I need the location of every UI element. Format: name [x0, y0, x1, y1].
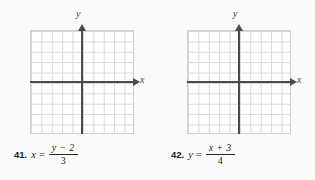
- worksheet-page: y x 41. x = y − 2 3 y x 42. y: [0, 0, 315, 180]
- problem-41: y x 41. x = y − 2 3: [0, 0, 157, 180]
- fraction-41: y − 2 3: [49, 143, 78, 166]
- problem-caption-41: 41. x = y − 2 3: [14, 143, 78, 166]
- x-axis-arrow-icon-41: [133, 78, 140, 86]
- x-axis-label-41: x: [140, 75, 144, 85]
- equals-sign-42: =: [196, 149, 202, 160]
- y-axis-arrow-icon-41: [78, 24, 86, 31]
- equals-sign-41: =: [39, 149, 45, 160]
- coordinate-plane-42: y x: [187, 30, 291, 134]
- coordinate-plane-41: y x: [30, 30, 134, 134]
- x-axis-arrow-icon-42: [290, 78, 297, 86]
- y-axis-arrow-icon-42: [235, 24, 243, 31]
- y-axis-41: [81, 30, 83, 134]
- fraction-numerator-41: y − 2: [49, 143, 78, 154]
- problem-number-41: 41.: [14, 149, 27, 160]
- y-axis-label-42: y: [233, 9, 237, 19]
- problem-number-42: 42.: [171, 149, 184, 160]
- x-axis-label-42: x: [297, 75, 301, 85]
- equation-left-side-42: y: [188, 149, 193, 160]
- fraction-42: x + 3 4: [206, 143, 235, 166]
- problem-42: y x 42. y = x + 3 4: [157, 0, 314, 180]
- fraction-denominator-42: 4: [215, 155, 226, 166]
- y-axis-label-41: y: [76, 9, 80, 19]
- y-axis-42: [238, 30, 240, 134]
- problem-caption-42: 42. y = x + 3 4: [171, 143, 235, 166]
- equation-left-side-41: x: [31, 149, 36, 160]
- fraction-denominator-41: 3: [58, 155, 69, 166]
- fraction-numerator-42: x + 3: [206, 143, 235, 154]
